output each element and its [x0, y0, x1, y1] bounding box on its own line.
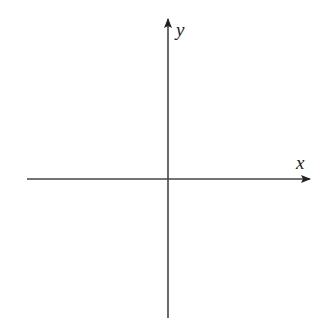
y-axis-label: y — [174, 19, 185, 40]
coordinate-axes: x y — [0, 0, 324, 336]
x-axis-label: x — [295, 152, 305, 173]
